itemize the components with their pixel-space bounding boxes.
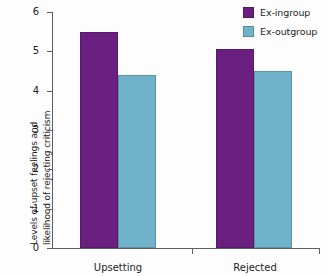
- y-axis-line: [52, 12, 53, 248]
- x-tick-label-rejected: Rejected: [233, 262, 277, 273]
- y-tick-label-1: 1: [33, 204, 39, 214]
- x-tick-end: [319, 248, 320, 254]
- y-tick-0: 0: [47, 248, 52, 249]
- y-axis-title-line-1: Levels of upset feelings and: [29, 122, 39, 245]
- y-tick-1: 1: [47, 209, 52, 210]
- plot-area: 6 5 4 3 2 1 0 Upsetting Rejected: [52, 12, 320, 248]
- y-tick-label-4: 4: [33, 86, 39, 96]
- bar-rejected-ex-outgroup: [254, 71, 292, 248]
- bar-chart-figure: Ex-ingroup Ex-outgroup Levels of upset f…: [0, 0, 328, 276]
- bar-upsetting-ex-outgroup: [118, 75, 156, 248]
- x-tick-separator: [192, 248, 193, 254]
- x-axis-line: [52, 248, 320, 249]
- y-tick-label-6: 6: [33, 7, 39, 17]
- y-tick-5: 5: [47, 51, 52, 52]
- bar-upsetting-ex-ingroup: [80, 32, 118, 248]
- y-tick-6: 6: [47, 12, 52, 13]
- y-tick-label-3: 3: [33, 125, 39, 135]
- y-tick-label-0: 0: [33, 243, 39, 253]
- y-tick-label-2: 2: [33, 164, 39, 174]
- y-tick-2: 2: [47, 169, 52, 170]
- y-axis-title-container: Levels of upset feelings and likelihood …: [0, 0, 34, 250]
- y-tick-3: 3: [47, 130, 52, 131]
- y-tick-4: 4: [47, 91, 52, 92]
- x-tick-label-upsetting: Upsetting: [94, 262, 142, 273]
- y-tick-label-5: 5: [33, 46, 39, 56]
- bar-rejected-ex-ingroup: [216, 49, 254, 248]
